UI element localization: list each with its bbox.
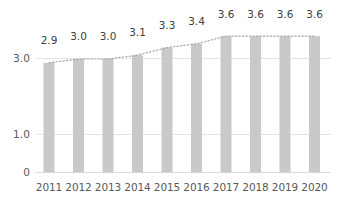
bar-2019 [280,36,291,172]
xtick-label-2020: 2020 [300,181,330,193]
bar-2012 [73,59,84,173]
ytick-label-3.0: 3.0 [4,52,30,64]
xtick-label-2011: 2011 [34,181,64,193]
xtick-label-2012: 2012 [64,181,94,193]
xtick-label-2018: 2018 [241,181,271,193]
xtick-label-2013: 2013 [93,181,123,193]
bars-group [44,36,321,172]
xtick-label-2015: 2015 [152,181,182,193]
bar-2011 [44,63,55,173]
xtick-label-2014: 2014 [123,181,153,193]
bar-chart: 3.0 1.0 0 2.9 3.0 3.0 3.1 3.3 3.4 3.6 3.… [0,0,338,206]
ytick-label-1.0: 1.0 [4,128,30,140]
xtick-label-2016: 2016 [182,181,212,193]
xtick-label-2017: 2017 [211,181,241,193]
xtick-label-2019: 2019 [270,181,300,193]
ytick-label-0: 0 [4,166,30,178]
bar-2020 [309,36,320,172]
bar-2018 [250,36,261,172]
bar-2017 [221,36,232,172]
bar-2016 [191,44,202,173]
bar-2014 [132,55,143,172]
bar-2013 [103,59,114,173]
value-label-2020: 3.6 [297,8,333,20]
bar-2015 [162,48,173,173]
